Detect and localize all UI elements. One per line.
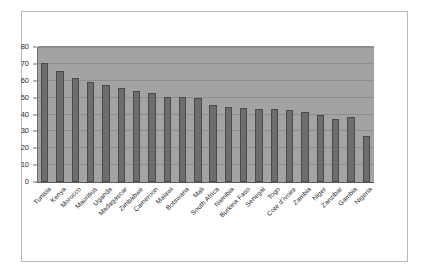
bar [102,85,109,182]
bar [179,97,186,182]
bar [255,109,262,182]
bar [148,93,155,182]
y-tick-label-70: 70 [21,60,29,68]
x-tick-label: Tunisia [32,186,52,206]
bar [41,63,48,182]
bar [317,115,324,183]
bars-layer [37,47,374,182]
bar [56,71,63,182]
y-tick-label-30: 30 [21,128,29,136]
y-tick-label-20: 20 [21,145,29,153]
y-tick-label-60: 60 [21,77,29,85]
bar [332,119,339,182]
y-tick-label-10: 10 [21,161,29,169]
bar [87,82,94,182]
y-tick-label-80: 80 [21,43,29,51]
y-axis: 01020304050607080 [0,47,34,183]
bar [347,117,354,182]
y-tick-label-50: 50 [21,94,29,102]
bar [286,110,293,182]
bar [118,88,125,183]
bar-chart: 01020304050607080 TunisiaKenyaMoroccoMau… [0,0,430,274]
bar [301,112,308,182]
bar [363,136,370,182]
bar [271,109,278,182]
x-axis: TunisiaKenyaMoroccoMauritiusUgandaMadaga… [37,184,374,264]
bar [194,98,201,182]
bar [72,78,79,182]
bar [225,107,232,182]
x-axis-line [37,182,374,183]
bar [133,91,140,182]
bar [164,97,171,182]
bar [240,108,247,182]
bar [209,105,216,182]
y-tick-label-0: 0 [25,178,29,186]
y-tick-label-40: 40 [21,111,29,119]
